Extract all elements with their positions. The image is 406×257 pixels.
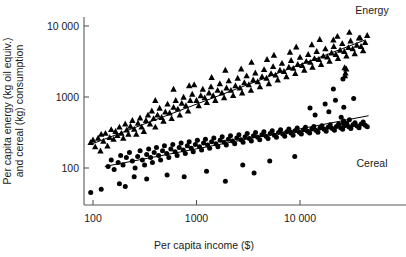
data-point bbox=[252, 69, 258, 75]
data-point bbox=[186, 82, 192, 88]
data-point bbox=[160, 148, 165, 153]
data-point bbox=[223, 179, 228, 184]
data-point bbox=[170, 142, 175, 147]
data-point bbox=[257, 137, 262, 142]
data-point bbox=[133, 166, 138, 171]
data-point bbox=[99, 187, 104, 192]
data-point bbox=[175, 153, 180, 158]
data-point bbox=[168, 115, 174, 121]
x-tick-label: 10 000 bbox=[284, 212, 316, 224]
y-axis-title-line2: and cereal (kg) consumption bbox=[13, 45, 25, 178]
data-point bbox=[179, 100, 185, 106]
data-point bbox=[339, 40, 345, 46]
data-point bbox=[228, 133, 233, 138]
data-point bbox=[208, 83, 214, 89]
x-tick-label: 100 bbox=[84, 212, 102, 224]
data-point bbox=[135, 120, 141, 126]
data-point bbox=[232, 82, 238, 88]
data-point bbox=[118, 153, 123, 158]
x-axis-ticks: 100100010 000 bbox=[84, 200, 316, 224]
y-axis-title-line1: Per capita energy (kg oil equiv.) bbox=[1, 38, 13, 185]
data-point bbox=[292, 70, 298, 76]
data-point bbox=[132, 174, 137, 179]
data-point bbox=[282, 134, 287, 139]
data-point bbox=[331, 43, 337, 49]
data-point bbox=[264, 56, 270, 62]
data-point bbox=[234, 75, 240, 81]
data-point bbox=[152, 150, 157, 155]
data-point bbox=[208, 74, 214, 80]
data-point bbox=[189, 91, 195, 97]
data-point bbox=[127, 150, 132, 155]
energy-series-label: Energy bbox=[355, 4, 389, 16]
data-point bbox=[156, 105, 162, 111]
data-point bbox=[279, 60, 285, 66]
data-point bbox=[287, 49, 293, 55]
data-point bbox=[127, 123, 133, 129]
data-point bbox=[245, 131, 250, 136]
data-point bbox=[138, 148, 143, 153]
data-point bbox=[195, 138, 200, 143]
data-point bbox=[144, 152, 149, 157]
data-point bbox=[283, 73, 289, 79]
data-point bbox=[308, 105, 313, 110]
data-point bbox=[292, 154, 297, 159]
y-tick-label: 100 bbox=[61, 162, 79, 174]
data-point bbox=[122, 121, 128, 127]
data-point bbox=[102, 130, 108, 136]
data-point bbox=[129, 117, 135, 123]
data-point bbox=[270, 63, 276, 69]
data-point bbox=[204, 169, 209, 174]
data-point bbox=[158, 157, 163, 162]
data-point bbox=[170, 104, 176, 110]
data-point bbox=[142, 163, 147, 168]
data-point bbox=[253, 130, 258, 135]
data-point bbox=[123, 184, 128, 189]
data-point bbox=[117, 181, 122, 186]
data-point bbox=[187, 139, 192, 144]
data-point bbox=[154, 112, 160, 118]
data-point bbox=[297, 54, 303, 60]
data-point bbox=[150, 160, 155, 165]
cereal-trendline bbox=[105, 116, 369, 167]
data-point bbox=[220, 134, 225, 139]
data-point bbox=[230, 92, 236, 98]
data-point bbox=[223, 85, 229, 91]
data-point bbox=[165, 172, 170, 177]
data-point bbox=[133, 131, 139, 137]
scatter-chart: 100100010 000 100100010 000 Energy Cerea… bbox=[0, 0, 406, 257]
cereal-series-label: Cereal bbox=[357, 157, 388, 169]
y-tick-label: 1000 bbox=[56, 91, 80, 103]
data-point bbox=[347, 38, 353, 44]
data-point bbox=[333, 98, 338, 103]
data-point bbox=[278, 127, 283, 132]
data-point bbox=[270, 128, 275, 133]
data-point bbox=[326, 109, 331, 114]
data-point bbox=[248, 87, 254, 93]
data-point bbox=[291, 133, 296, 138]
data-point bbox=[331, 86, 336, 91]
data-point bbox=[257, 83, 263, 89]
data-point bbox=[154, 145, 159, 150]
data-point bbox=[293, 44, 299, 50]
y-tick-label: 10 000 bbox=[47, 20, 79, 32]
data-point bbox=[249, 139, 254, 144]
data-point bbox=[173, 97, 179, 103]
data-point bbox=[248, 59, 254, 65]
data-point bbox=[187, 97, 193, 103]
data-point bbox=[191, 81, 197, 87]
data-point bbox=[112, 167, 117, 172]
data-point bbox=[177, 112, 183, 118]
data-point bbox=[314, 48, 320, 54]
data-point bbox=[261, 66, 267, 72]
data-point bbox=[179, 140, 184, 145]
data-point bbox=[149, 108, 155, 114]
data-point bbox=[206, 89, 212, 95]
data-point bbox=[109, 157, 114, 162]
data-point bbox=[217, 80, 223, 86]
data-point bbox=[305, 51, 311, 57]
data-point bbox=[198, 92, 204, 98]
data-point bbox=[351, 96, 356, 101]
data-point bbox=[168, 147, 173, 152]
data-point bbox=[271, 52, 277, 58]
